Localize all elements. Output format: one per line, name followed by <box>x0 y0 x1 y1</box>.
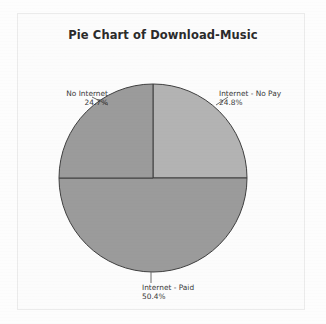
pie-label-no-internet-name: No Internet <box>36 89 108 98</box>
pie-chart-canvas <box>0 0 326 324</box>
pie-label-internet-no-pay: Internet - No Pay 24.8% <box>219 89 315 107</box>
pie-label-internet-paid-name: Internet - Paid <box>142 283 232 292</box>
pie-label-no-internet-value: 24.7% <box>36 98 108 107</box>
pie-label-internet-no-pay-name: Internet - No Pay <box>219 89 315 98</box>
pie-label-no-internet: No Internet 24.7% <box>36 89 108 107</box>
pie-label-internet-no-pay-value: 24.8% <box>219 98 315 107</box>
pie-label-internet-paid-value: 50.4% <box>142 292 232 301</box>
pie-slice-internet-paid[interactable] <box>59 178 247 272</box>
pie-label-internet-paid: Internet - Paid 50.4% <box>142 283 232 301</box>
pie-chart-figure: Pie Chart of Download-Music No Internet … <box>0 0 326 324</box>
